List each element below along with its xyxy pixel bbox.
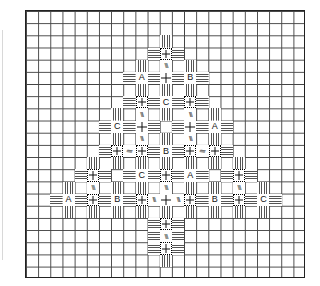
pattern-cell-letter-C: C	[160, 96, 172, 108]
pattern-cell-letter-C: C	[111, 121, 123, 133]
diagonal-stitch-icon: \\\	[238, 184, 241, 191]
pattern-cell-vertical-bars	[111, 182, 123, 194]
diagonal-stitch-icon: \\\	[140, 111, 143, 118]
pattern-cell-vertical-bars	[209, 182, 221, 194]
pattern-cell-vertical-bars	[160, 108, 172, 120]
pattern-cell-horizontal-bars	[123, 72, 135, 84]
pattern-cell-dotted-cross	[111, 145, 123, 157]
pattern-cell-dotted-cross	[160, 169, 172, 181]
pattern-cell-dotted-cross	[136, 96, 148, 108]
pattern-cell-horizontal-bars	[172, 96, 184, 108]
pattern-cell-horizontal-bars	[99, 145, 111, 157]
page-edge	[2, 30, 3, 260]
pattern-cell-vertical-bars	[160, 84, 172, 96]
pattern-cell-horizontal-bars	[221, 121, 233, 133]
pattern-cell-horizontal-bars	[196, 96, 208, 108]
pattern-cell-dotted-cross	[209, 145, 221, 157]
pattern-cell-vertical-bars	[136, 60, 148, 72]
pattern-cell-vertical-bars	[111, 133, 123, 145]
pattern-cell-vertical-bars	[233, 157, 245, 169]
pattern-cell-vertical-bars	[136, 206, 148, 218]
pattern-cell-vertical-bars	[160, 133, 172, 145]
pattern-cell-dotted-cross	[87, 169, 99, 181]
pattern-cell-horizontal-bars	[148, 242, 160, 254]
pattern-cell-horizontal-bars	[245, 169, 257, 181]
cell-label: C	[114, 122, 121, 131]
pattern-cell-horizontal-bars	[50, 194, 62, 206]
pattern-cell-horizontal-bars	[148, 72, 160, 84]
pattern-cell-plus	[184, 121, 196, 133]
diagonal-stitch-icon: \\\	[152, 196, 155, 203]
pattern-cell-diagonal-stitch: \\\	[184, 133, 196, 145]
pattern-cell-vertical-bars	[184, 157, 196, 169]
pattern-cell-horizontal-bars	[148, 169, 160, 181]
pattern-cell-diagonal-stitch: \\\	[172, 194, 184, 206]
diagonal-stitch-icon: \\\	[140, 135, 143, 142]
pattern-cell-dotted-cross	[160, 218, 172, 230]
pattern-cell-vertical-bars	[87, 206, 99, 218]
pattern-cell-vertical-bars	[257, 182, 269, 194]
pattern-cell-horizontal-bars	[148, 230, 160, 242]
pattern-cell-horizontal-bars	[172, 72, 184, 84]
pattern-cell-horizontal-bars	[148, 145, 160, 157]
pattern-cell-vertical-bars	[184, 182, 196, 194]
cell-label: A	[187, 171, 193, 180]
pattern-cell-vertical-bars	[257, 206, 269, 218]
pattern-cell-horizontal-bars	[123, 121, 135, 133]
pattern-cell-horizontal-bars	[75, 194, 87, 206]
pattern-cell-dotted-cross	[160, 48, 172, 60]
pattern-cell-horizontal-bars	[196, 121, 208, 133]
pattern-cell-horizontal-bars	[196, 72, 208, 84]
pattern-cell-vertical-bars	[136, 157, 148, 169]
diagonal-stitch-icon: \\\	[189, 135, 192, 142]
cell-label: B	[187, 73, 193, 82]
pattern-cell-horizontal-bars	[99, 194, 111, 206]
pattern-cell-vertical-bars	[184, 84, 196, 96]
pattern-cell-horizontal-bars	[172, 169, 184, 181]
pattern-cell-diagonal-stitch: \\\	[136, 133, 148, 145]
diagonal-stitch-icon: \\\	[165, 184, 168, 191]
cell-label: C	[163, 98, 170, 107]
pattern-cell-vertical-bars	[233, 206, 245, 218]
pattern-cell-letter-B: B	[184, 72, 196, 84]
stitch-pattern-grid: \\\ABC\\\\\\CA\\\\\\\\\B\\\CA\\\\\\\\\AB…	[25, 10, 305, 278]
pattern-cell-horizontal-bars	[221, 194, 233, 206]
pattern-cell-vertical-bars	[136, 84, 148, 96]
diagonal-stitch-icon: \\\	[189, 111, 192, 118]
pattern-cell-dotted-cross	[136, 194, 148, 206]
pattern-cell-horizontal-bars	[269, 194, 281, 206]
pattern-cell-horizontal-bars	[172, 145, 184, 157]
pattern-cell-vertical-bars	[160, 157, 172, 169]
pattern-cell-dotted-cross	[160, 242, 172, 254]
pattern-cell-diagonal-stitch: \\\	[160, 230, 172, 242]
cell-label: C	[138, 171, 145, 180]
pattern-cell-horizontal-bars	[172, 230, 184, 242]
pattern-cell-horizontal-bars	[221, 169, 233, 181]
cell-label: A	[66, 195, 72, 204]
pattern-cell-horizontal-bars	[172, 121, 184, 133]
pattern-cell-horizontal-bars	[75, 169, 87, 181]
pattern-cell-horizontal-bars	[172, 218, 184, 230]
pattern-cell-vertical-bars	[160, 255, 172, 267]
pattern-cell-vertical-bars	[63, 182, 75, 194]
pattern-cell-diagonal-stitch: \\\	[184, 108, 196, 120]
diagonal-stitch-icon: \\\	[177, 196, 180, 203]
pattern-cell-vertical-bars	[184, 60, 196, 72]
pattern-cell-dotted-cross	[87, 194, 99, 206]
pattern-cell-letter-C: C	[136, 169, 148, 181]
pattern-cell-horizontal-bars	[148, 218, 160, 230]
pattern-cell-vertical-bars	[136, 182, 148, 194]
pattern-cell-letter-A: A	[209, 121, 221, 133]
pattern-cell-plus	[136, 121, 148, 133]
pattern-cell-dotted-cross	[233, 194, 245, 206]
pattern-cell-diagonal-stitch: \\\	[87, 182, 99, 194]
pattern-cell-horizontal-bars	[196, 194, 208, 206]
pattern-cell-horizontal-bars	[123, 194, 135, 206]
pattern-cell-dotted-cross	[184, 96, 196, 108]
pattern-cell-horizontal-bars	[148, 48, 160, 60]
pattern-cell-vertical-bars	[209, 206, 221, 218]
pattern-cell-horizontal-bars	[148, 96, 160, 108]
pattern-cell-dotted-cross	[233, 169, 245, 181]
pattern-cell-horizontal-bars	[172, 48, 184, 60]
pattern-cell-sideways-diagonal-stitch: \\\	[123, 145, 135, 157]
